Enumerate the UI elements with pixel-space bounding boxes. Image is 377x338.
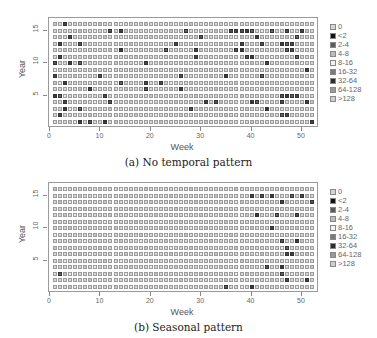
- heatmap-cell: [68, 213, 72, 217]
- heatmap-cell: [255, 220, 259, 224]
- heatmap-cell: [169, 200, 173, 204]
- heatmap-cell: [164, 226, 168, 230]
- heatmap-cell: [224, 226, 228, 230]
- panel-b: 5101501020304050WeekYear(b) Seasonal pat…: [0, 0, 377, 338]
- heatmap-cell: [189, 220, 193, 224]
- heatmap-cell: [255, 246, 259, 250]
- heatmap-cell: [234, 194, 238, 198]
- heatmap-cell: [245, 252, 249, 256]
- heatmap-cell: [285, 207, 289, 211]
- heatmap-cell: [124, 226, 128, 230]
- heatmap-cell: [184, 259, 188, 263]
- heatmap-cell: [63, 239, 67, 243]
- heatmap-cell: [58, 213, 62, 217]
- heatmap-cell: [93, 213, 97, 217]
- heatmap-cell: [139, 246, 143, 250]
- heatmap-cell: [285, 194, 289, 198]
- heatmap-cell: [250, 207, 254, 211]
- heatmap-cell: [93, 194, 97, 198]
- heatmap-cell: [78, 213, 82, 217]
- heatmap-cell: [280, 252, 284, 256]
- heatmap-cell: [119, 207, 123, 211]
- heatmap-cell: [300, 272, 304, 276]
- heatmap-cell: [285, 226, 289, 230]
- heatmap-cell: [78, 278, 82, 282]
- heatmap-cell: [159, 285, 163, 289]
- heatmap-cell: [224, 233, 228, 237]
- heatmap-cell: [250, 233, 254, 237]
- heatmap-cell: [149, 213, 153, 217]
- heatmap-cell: [214, 246, 218, 250]
- heatmap-cell: [234, 226, 238, 230]
- heatmap-cell: [194, 233, 198, 237]
- heatmap-cell: [300, 278, 304, 282]
- heatmap-cell: [310, 213, 314, 217]
- heatmap-cell: [280, 226, 284, 230]
- heatmap-cell: [139, 220, 143, 224]
- heatmap-cell: [199, 233, 203, 237]
- heatmap-cell: [83, 265, 87, 269]
- heatmap-cell: [68, 252, 72, 256]
- heatmap-cell: [124, 213, 128, 217]
- heatmap-cell: [93, 285, 97, 289]
- heatmap-cell: [139, 194, 143, 198]
- heatmap-cell: [98, 207, 102, 211]
- heatmap-cell: [199, 259, 203, 263]
- heatmap-cell: [68, 285, 72, 289]
- heatmap-cell: [260, 200, 264, 204]
- heatmap-cell: [124, 246, 128, 250]
- heatmap-cell: [98, 226, 102, 230]
- heatmap-cell: [290, 213, 294, 217]
- heatmap-cell: [285, 213, 289, 217]
- heatmap-cell: [300, 233, 304, 237]
- x-tick: [251, 292, 252, 296]
- heatmap-cell: [154, 252, 158, 256]
- heatmap-cell: [219, 194, 223, 198]
- heatmap-cell: [119, 246, 123, 250]
- heatmap-cell: [270, 252, 274, 256]
- heatmap-cell: [179, 187, 183, 191]
- heatmap-cell: [305, 259, 309, 263]
- heatmap-cell: [240, 200, 244, 204]
- heatmap-cell: [68, 233, 72, 237]
- heatmap-cell: [108, 194, 112, 198]
- heatmap-cell: [234, 187, 238, 191]
- heatmap-cell: [63, 187, 67, 191]
- heatmap-cell: [134, 187, 138, 191]
- heatmap-cell: [285, 265, 289, 269]
- heatmap-cell: [93, 207, 97, 211]
- heatmap-cell: [179, 259, 183, 263]
- heatmap-cell: [103, 278, 107, 282]
- heatmap-cell: [144, 233, 148, 237]
- heatmap-cell: [240, 239, 244, 243]
- heatmap-cell: [280, 220, 284, 224]
- heatmap-cell: [93, 246, 97, 250]
- heatmap-cell: [194, 239, 198, 243]
- heatmap-cell: [250, 285, 254, 289]
- y-tick-label: 15: [32, 186, 39, 200]
- heatmap-cell: [199, 272, 203, 276]
- heatmap-cell: [189, 278, 193, 282]
- heatmap-cell: [129, 272, 133, 276]
- heatmap-cell: [270, 187, 274, 191]
- heatmap-cell: [149, 233, 153, 237]
- heatmap-cell: [199, 246, 203, 250]
- heatmap-cell: [164, 213, 168, 217]
- heatmap-cell: [63, 265, 67, 269]
- heatmap-cell: [310, 226, 314, 230]
- legend-item: 2-4: [330, 205, 361, 214]
- heatmap-cell: [224, 246, 228, 250]
- heatmap-cell: [310, 278, 314, 282]
- heatmap-cell: [134, 246, 138, 250]
- heatmap-cell: [194, 272, 198, 276]
- heatmap-cell: [295, 233, 299, 237]
- heatmap-cell: [108, 278, 112, 282]
- heatmap-cell: [139, 285, 143, 289]
- heatmap-cell: [290, 246, 294, 250]
- heatmap-cell: [199, 285, 203, 289]
- heatmap-cell: [265, 233, 269, 237]
- heatmap-cell: [164, 239, 168, 243]
- heatmap-cell: [73, 200, 77, 204]
- heatmap-cell: [295, 226, 299, 230]
- heatmap-cell: [154, 285, 158, 289]
